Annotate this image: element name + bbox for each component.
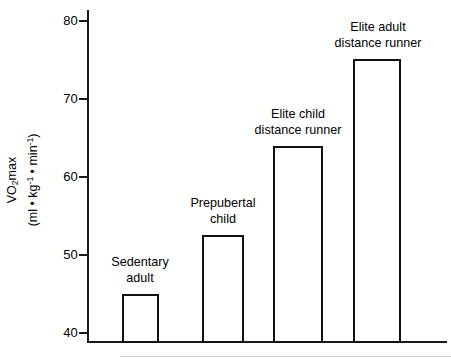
bar-sedentary-adult	[122, 294, 159, 343]
y-axis-label-line-2: (ml • kg-1 • min-1)	[23, 133, 41, 226]
y-axis-label: VO2max (ml • kg-1 • min-1)	[0, 0, 46, 359]
bar-label-prepubertal-child: Prepubertal child	[168, 196, 278, 227]
v-dot-icon: V	[5, 194, 20, 202]
y-axis-line	[87, 10, 89, 343]
bar-elite-adult-distance-runner	[353, 59, 401, 343]
y-tick-label-60: 60	[50, 170, 78, 183]
bar-label-elite-adult-distance-runner: Elite adult distance runner	[318, 20, 438, 51]
bar-prepubertal-child	[202, 235, 244, 343]
bar-elite-child-distance-runner	[273, 146, 323, 343]
page-edge-line	[120, 356, 451, 357]
y-tick-label-40: 40	[50, 326, 78, 339]
y-axis-label-text: VO2max (ml • kg-1 • min-1)	[5, 133, 40, 226]
y-tick-label-50: 50	[50, 248, 78, 261]
y-axis-label-line-1: VO2max	[5, 133, 23, 226]
bar-label-elite-child-distance-runner: Elite child distance runner	[238, 107, 358, 138]
bar-label-sedentary-adult: Sedentary adult	[90, 255, 190, 286]
y-tick-label-80: 80	[50, 14, 78, 27]
y-tick-label-70: 70	[50, 92, 78, 105]
bar-chart-figure: VO2max (ml • kg-1 • min-1) 80 70 60 50 4…	[0, 0, 451, 359]
